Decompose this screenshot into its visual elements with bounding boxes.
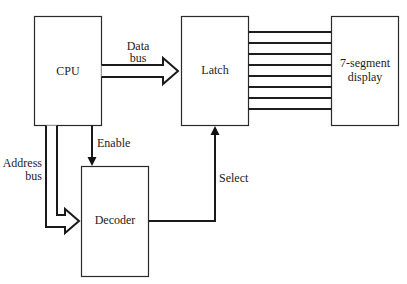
address-bus-arrow (46, 126, 79, 234)
enable-arrowhead (88, 157, 97, 166)
latch-label: Latch (201, 63, 228, 77)
enable-label: Enable (97, 136, 130, 150)
select-label: Select (219, 171, 249, 185)
select-line (149, 134, 216, 221)
address-bus-label-line2: bus (25, 169, 42, 183)
data-bus-label-line2: bus (130, 51, 147, 65)
select-arrowhead (211, 126, 220, 135)
block-diagram: CPU Latch 7-segment display Decoder Data… (0, 0, 407, 284)
display-label-line1: 7-segment (340, 56, 391, 70)
latch-to-display-lines (249, 32, 332, 109)
cpu-label: CPU (56, 64, 80, 78)
address-bus-label-line1: Address (3, 156, 43, 170)
display-label-line2: display (348, 70, 383, 84)
decoder-label: Decoder (95, 213, 136, 227)
